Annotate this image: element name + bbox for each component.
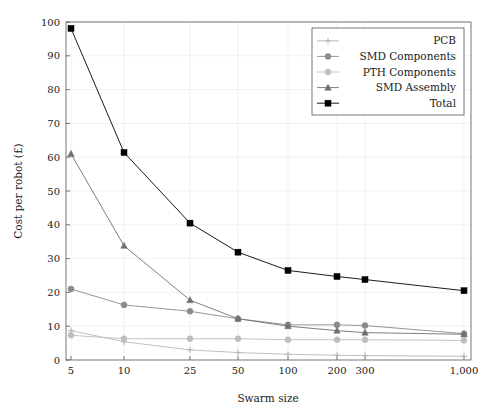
- legend-label: Total: [430, 97, 457, 109]
- data-point-marker: [325, 69, 331, 75]
- data-point-marker: [68, 150, 74, 156]
- data-point-marker: [334, 274, 340, 280]
- y-tick-label: 90: [47, 50, 60, 61]
- y-axis-title: Cost per robot (£): [12, 143, 24, 238]
- data-point-marker: [121, 242, 127, 248]
- series-smd-assembly: [68, 150, 467, 337]
- data-point-marker: [187, 308, 193, 314]
- data-point-marker: [325, 100, 331, 106]
- data-point-marker: [121, 149, 127, 155]
- legend-label: SMD Assembly: [376, 81, 456, 93]
- x-axis-title: Swarm size: [237, 392, 298, 404]
- legend-label: SMD Components: [360, 50, 456, 62]
- data-point-marker: [235, 249, 241, 255]
- y-tick-label: 10: [47, 321, 60, 332]
- data-point-marker: [325, 53, 331, 59]
- data-point-marker: [187, 220, 193, 226]
- series-smd-components: [68, 286, 467, 337]
- data-point-marker: [362, 337, 368, 343]
- data-point-marker: [68, 286, 74, 292]
- data-point-marker: [285, 337, 291, 343]
- chart-figure: 51025501002003001,000 010203040506070809…: [0, 0, 485, 414]
- data-point-marker: [362, 277, 368, 283]
- data-point-marker: [362, 323, 368, 329]
- data-point-marker: [68, 25, 74, 31]
- legend-label: PTH Components: [363, 66, 456, 78]
- data-point-marker: [285, 267, 291, 273]
- data-point-marker: [334, 352, 340, 358]
- y-tick-label: 50: [47, 186, 60, 197]
- data-point-marker: [461, 337, 467, 343]
- legend-label: PCB: [433, 34, 456, 46]
- series-pth-components: [68, 332, 467, 343]
- y-tick-label: 100: [41, 17, 60, 28]
- data-point-marker: [461, 353, 467, 359]
- y-tick-label: 80: [47, 84, 60, 95]
- data-point-marker: [68, 332, 74, 338]
- x-tick-label: 50: [232, 365, 245, 376]
- data-point-marker: [362, 353, 368, 359]
- series-pcb: [68, 328, 467, 360]
- chart-legend[interactable]: PCBSMD ComponentsPTH ComponentsSMD Assem…: [312, 28, 464, 115]
- x-tick-label: 100: [278, 365, 297, 376]
- y-tick-label: 70: [47, 118, 60, 129]
- data-point-marker: [187, 347, 193, 353]
- x-tick-label: 200: [327, 365, 346, 376]
- data-point-marker: [235, 336, 241, 342]
- data-point-marker: [121, 336, 127, 342]
- y-tick-label: 0: [54, 355, 60, 366]
- x-tick-label: 25: [184, 365, 197, 376]
- y-tick-label: 60: [47, 152, 60, 163]
- x-tick-label: 5: [68, 365, 74, 376]
- cost-per-robot-line-chart: 51025501002003001,000 010203040506070809…: [0, 0, 485, 414]
- x-tick-label: 1,000: [450, 365, 479, 376]
- data-point-marker: [187, 336, 193, 342]
- x-tick-label: 300: [355, 365, 374, 376]
- y-tick-label: 30: [47, 253, 60, 264]
- x-axis-ticks: 51025501002003001,000: [68, 356, 479, 376]
- y-tick-label: 40: [47, 219, 60, 230]
- y-tick-label: 20: [47, 287, 60, 298]
- data-point-marker: [121, 302, 127, 308]
- data-point-marker: [461, 288, 467, 294]
- data-point-marker: [285, 351, 291, 357]
- data-point-marker: [235, 350, 241, 356]
- data-point-marker: [187, 297, 193, 303]
- data-point-marker: [334, 337, 340, 343]
- x-tick-label: 10: [118, 365, 131, 376]
